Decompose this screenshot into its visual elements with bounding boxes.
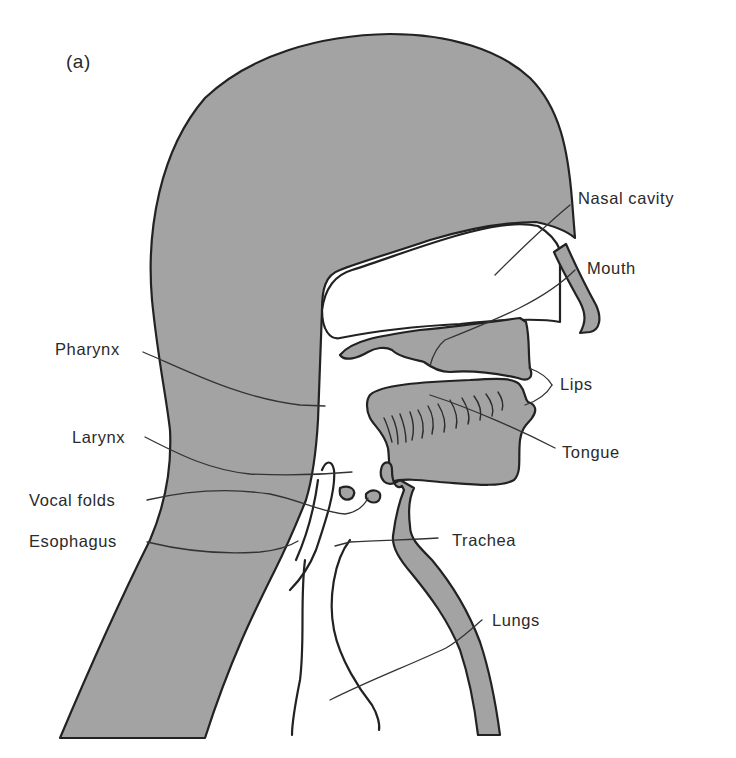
label-larynx: Larynx bbox=[72, 429, 125, 446]
vocal-tract-illustration bbox=[0, 0, 736, 758]
label-lungs: Lungs bbox=[492, 612, 540, 629]
vocal-fold-shape bbox=[340, 487, 354, 500]
label-trachea: Trachea bbox=[452, 532, 516, 549]
epiglottis-tip bbox=[366, 491, 380, 503]
label-vocal-folds: Vocal folds bbox=[29, 492, 115, 509]
panel-label: (a) bbox=[66, 52, 91, 71]
leader-lips-upper bbox=[529, 368, 552, 385]
label-esophagus: Esophagus bbox=[29, 533, 117, 550]
label-nasal-cavity: Nasal cavity bbox=[578, 190, 674, 207]
vocal-tract-diagram: (a) Nasal cavity Mouth Lips Tongue Trach… bbox=[0, 0, 736, 758]
trachea bbox=[381, 463, 500, 735]
lung-outline-right bbox=[332, 540, 380, 730]
label-mouth: Mouth bbox=[587, 260, 636, 277]
label-tongue: Tongue bbox=[562, 444, 620, 461]
label-pharynx: Pharynx bbox=[55, 341, 120, 358]
label-lips: Lips bbox=[560, 376, 593, 393]
